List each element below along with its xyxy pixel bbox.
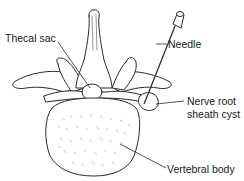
thecal-sac-label: Thecal sac [5,32,56,44]
nerve-root-label-line1: Nerve root [187,95,236,107]
nerve-root-label-line2: sheath cyst [187,108,240,120]
nerve-root-leader [156,101,184,104]
vertebral-body-label: Vertebral body [167,163,235,175]
vertebra-diagram: Thecal sac Needle Nerve root sheath cyst… [0,0,244,181]
vertebral-body [46,98,140,176]
needle-label: Needle [168,38,201,50]
vertebra-illustration [0,0,244,181]
needle [143,12,184,105]
nerve-root-sheath-cyst [138,93,158,111]
